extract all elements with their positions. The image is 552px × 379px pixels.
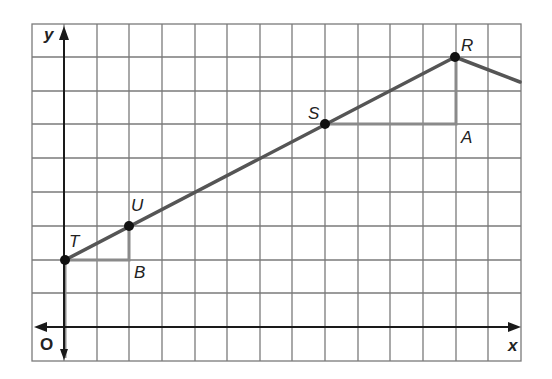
point-R-label: R: [461, 36, 473, 55]
corner-A-label: A: [460, 128, 472, 147]
point-R: [450, 52, 460, 62]
coordinate-plane-diagram: y x O T U S R B A: [0, 0, 552, 379]
y-axis-down-arrow-icon: [60, 349, 68, 360]
point-U-label: U: [131, 196, 144, 215]
grid: [32, 24, 521, 361]
point-U: [124, 221, 134, 231]
point-T: [60, 255, 70, 265]
y-axis-label: y: [43, 25, 55, 44]
point-S: [320, 119, 330, 129]
y-axis-up-arrow-icon: [59, 26, 69, 40]
corner-B-label: B: [134, 263, 145, 282]
x-axis-label: x: [507, 336, 519, 355]
origin-label: O: [40, 335, 53, 354]
point-S-label: S: [308, 104, 320, 123]
x-axis-right-arrow-icon: [508, 322, 521, 332]
axes: [34, 26, 521, 360]
x-axis-left-arrow-icon: [34, 322, 47, 332]
point-T-label: T: [69, 232, 81, 251]
